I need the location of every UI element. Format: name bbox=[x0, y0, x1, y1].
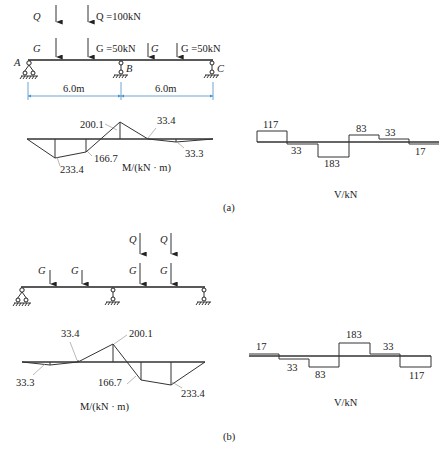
q-value-label-a: Q =100kN bbox=[96, 11, 141, 22]
q-label-b-2: Q bbox=[160, 234, 168, 245]
q-label-b-1: Q bbox=[129, 234, 137, 245]
moment-unit-label-b: M/(kN · m) bbox=[80, 401, 129, 413]
shear-diagram-a bbox=[257, 131, 439, 157]
moment-value-b-33-4: 33.4 bbox=[61, 328, 80, 339]
g-load-arrows-b bbox=[50, 263, 171, 284]
g-label-a-2: G bbox=[151, 43, 159, 54]
g-label-b-4: G bbox=[160, 265, 168, 276]
caption-a: (a) bbox=[223, 202, 235, 214]
panel-b: G G G G Q Q bbox=[13, 233, 431, 443]
shear-value-a-33b: 33 bbox=[385, 127, 396, 138]
caption-b: (b) bbox=[223, 431, 236, 443]
shear-value-a-183: 183 bbox=[324, 158, 340, 169]
support-label-a: A bbox=[13, 57, 21, 68]
shear-value-a-83: 83 bbox=[356, 123, 367, 134]
g-value-label-a-2: G =50kN bbox=[181, 43, 221, 54]
moment-unit-label-a: M/(kN · m) bbox=[122, 162, 171, 174]
moment-value-b-166: 166.7 bbox=[98, 377, 122, 388]
shear-value-a-117: 117 bbox=[263, 119, 278, 130]
q-label-a: Q bbox=[33, 11, 41, 22]
moment-value-a-166: 166.7 bbox=[94, 153, 118, 164]
span-label-a-2: 6.0m bbox=[155, 83, 176, 94]
moment-value-a-200: 200.1 bbox=[80, 119, 104, 130]
moment-value-a-33-3: 33.3 bbox=[185, 148, 203, 159]
moment-value-b-233: 233.4 bbox=[181, 388, 205, 399]
g-label-b-1: G bbox=[38, 265, 46, 276]
shear-value-b-83: 83 bbox=[315, 369, 326, 380]
support-b-right-roller-icon bbox=[196, 288, 211, 305]
moment-value-b-200: 200.1 bbox=[129, 328, 153, 339]
support-label-c: C bbox=[217, 63, 225, 74]
moment-diagram-a bbox=[27, 122, 213, 166]
moment-value-b-33-3: 33.3 bbox=[16, 377, 34, 388]
shear-value-b-33b: 33 bbox=[383, 341, 394, 352]
shear-unit-label-b: V/kN bbox=[334, 397, 358, 408]
support-label-b: B bbox=[126, 63, 133, 74]
q-load-arrows-a bbox=[56, 5, 88, 22]
shear-diagram-b bbox=[249, 343, 431, 367]
shear-value-b-33: 33 bbox=[287, 362, 298, 373]
shear-value-a-33: 33 bbox=[291, 145, 302, 156]
shear-value-b-117: 117 bbox=[409, 370, 424, 381]
support-b-middle-roller-icon bbox=[105, 288, 120, 305]
shear-value-b-183: 183 bbox=[346, 329, 362, 340]
span-label-a-1: 6.0m bbox=[63, 83, 84, 94]
shear-value-a-17: 17 bbox=[415, 146, 426, 157]
panel-a: Q Q =100kN G G =50kN G G =50kN A B bbox=[13, 5, 439, 214]
shear-unit-label-a: V/kN bbox=[334, 189, 358, 200]
g-label-b-2: G bbox=[71, 265, 79, 276]
dimension-lines-a bbox=[28, 82, 213, 100]
moment-value-a-33-4: 33.4 bbox=[157, 115, 176, 126]
moment-value-a-233: 233.4 bbox=[60, 164, 84, 175]
g-label-b-3: G bbox=[129, 265, 137, 276]
support-b-left-pin-icon bbox=[13, 288, 31, 306]
g-value-label-a-1: G =50kN bbox=[96, 43, 136, 54]
g-label-a: G bbox=[33, 43, 41, 54]
support-a-pin-icon bbox=[20, 61, 38, 79]
diagram-canvas: Q Q =100kN G G =50kN G G =50kN A B bbox=[0, 0, 447, 451]
shear-value-b-17: 17 bbox=[256, 341, 267, 352]
